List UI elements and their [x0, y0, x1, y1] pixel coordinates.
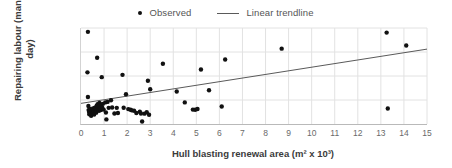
chart-legend: Observed Linear trendline — [0, 4, 452, 22]
data-point — [86, 30, 90, 34]
data-point — [140, 119, 144, 123]
data-point — [109, 98, 113, 102]
trendline-marker-icon — [217, 13, 239, 14]
data-point — [223, 57, 227, 61]
data-point — [86, 95, 90, 99]
data-point — [85, 70, 89, 74]
data-point — [183, 100, 187, 104]
data-point — [147, 113, 151, 117]
plot-area: 02,5005,0007,50010,000 01234567891011121… — [80, 28, 427, 125]
data-point — [120, 73, 124, 77]
data-point — [207, 88, 211, 92]
data-point — [161, 62, 165, 66]
legend-item-observed: Observed — [138, 8, 191, 18]
data-point — [100, 75, 104, 79]
data-point — [175, 89, 179, 93]
data-point — [104, 110, 108, 114]
data-point — [115, 106, 119, 110]
data-point — [195, 107, 199, 111]
data-point — [95, 56, 99, 60]
data-point — [220, 104, 224, 108]
x-axis-title: Hull blasting renewal area (m² x 10³) — [80, 148, 426, 159]
observed-marker-icon — [138, 11, 142, 15]
data-point — [386, 106, 390, 110]
y-axis-title: Repairing labour (man-day) — [12, 0, 36, 104]
legend-label-trendline: Linear trendline — [246, 8, 313, 18]
data-point — [146, 79, 150, 83]
data-point — [404, 43, 408, 47]
plot-canvas — [81, 28, 427, 124]
data-point — [124, 92, 128, 96]
x-axis-tick-label: 15 — [412, 128, 442, 138]
legend-label-observed: Observed — [149, 8, 191, 18]
legend-item-trendline: Linear trendline — [217, 8, 313, 18]
data-point — [104, 117, 108, 121]
data-point — [116, 111, 120, 115]
scatter-chart: Observed Linear trendline Repairing labo… — [0, 0, 452, 168]
data-point — [384, 30, 388, 34]
data-point — [279, 46, 283, 50]
data-point — [199, 67, 203, 71]
data-point — [148, 87, 152, 91]
data-point — [121, 105, 125, 109]
data-point — [110, 105, 114, 109]
